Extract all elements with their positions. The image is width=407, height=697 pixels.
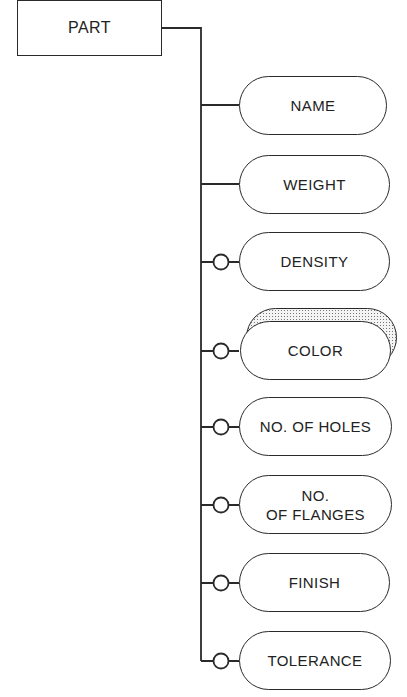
attribute-label: WEIGHT (283, 175, 345, 194)
attribute-density: DENSITY (239, 232, 390, 291)
optional-circle-icon (214, 576, 229, 591)
attribute-label: DENSITY (281, 252, 349, 271)
attribute-finish: FINISH (239, 553, 390, 612)
attribute-label-line2: OF FLANGES (266, 505, 365, 524)
optional-circle-icon (214, 420, 229, 435)
optional-circle-icon (214, 255, 229, 270)
attribute-label: NAME (291, 96, 336, 115)
attribute-name: NAME (239, 76, 387, 135)
attribute-tolerance: TOLERANCE (239, 631, 391, 690)
attribute-label-line1: NO. (302, 486, 330, 505)
attribute-color: COLOR (240, 321, 391, 380)
optional-circle-icon (214, 498, 229, 513)
optional-circle-icon (214, 344, 229, 359)
optional-circle-icon (214, 654, 229, 669)
attribute-label: COLOR (288, 341, 343, 360)
attribute-no-of-holes: NO. OF HOLES (239, 397, 392, 456)
attribute-no-of-flanges: NO. OF FLANGES (239, 475, 392, 534)
trunk-line (162, 28, 201, 661)
attribute-label: FINISH (289, 573, 341, 592)
attribute-weight: WEIGHT (239, 155, 390, 214)
attribute-label: NO. OF HOLES (260, 417, 372, 436)
attribute-label: TOLERANCE (267, 651, 362, 670)
